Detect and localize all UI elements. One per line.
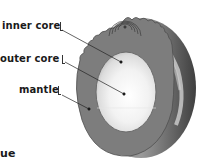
mantle-point bbox=[88, 108, 90, 110]
label-tick-inner-core bbox=[60, 22, 61, 31]
inner-core-point bbox=[120, 61, 122, 63]
core-layers bbox=[96, 52, 156, 132]
footer-text-fragment: ue bbox=[0, 148, 16, 160]
outer-core-region bbox=[96, 52, 156, 132]
label-mantle: mantle bbox=[19, 84, 59, 96]
label-outer-core: outer core bbox=[0, 53, 59, 65]
label-tick-outer-core bbox=[62, 55, 63, 64]
label-tick-mantle bbox=[58, 86, 59, 95]
label-inner-core: inner core bbox=[2, 20, 60, 32]
outer-core-point bbox=[123, 93, 125, 95]
